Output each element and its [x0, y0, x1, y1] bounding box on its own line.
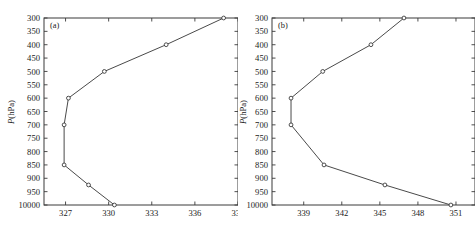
- y-tick-label: 350: [255, 26, 268, 36]
- y-tick-label: 800: [255, 147, 268, 157]
- data-point-marker: [289, 96, 293, 100]
- data-point-marker: [62, 163, 66, 167]
- data-point-marker: [102, 70, 106, 74]
- y-axis-label-unit: (hPa): [6, 100, 16, 119]
- y-axis-label: P(hPa): [6, 100, 16, 125]
- panel-label: (a): [50, 21, 60, 30]
- y-tick-label: 350: [27, 26, 40, 36]
- chart-panel-b: 3393423453483513003504004505005506006507…: [237, 0, 475, 239]
- y-tick-label: 600: [27, 93, 40, 103]
- data-point-marker: [383, 183, 387, 187]
- y-tick-label: 10000: [19, 200, 40, 210]
- y-tick-label: 450: [27, 53, 40, 63]
- y-tick-label: 650: [255, 107, 268, 117]
- y-tick-label: 750: [27, 133, 40, 143]
- y-tick-label: 500: [255, 67, 268, 77]
- x-tick-label: 351: [450, 208, 463, 218]
- data-point-marker: [67, 96, 71, 100]
- data-point-marker: [322, 163, 326, 167]
- data-series-line: [64, 18, 224, 205]
- y-axis-label-unit: (hPa): [238, 100, 248, 119]
- chart-svg-a: 3273303333363393003504004505005506006507…: [0, 0, 238, 239]
- y-tick-label: 300: [27, 13, 40, 23]
- y-tick-label: 10000: [247, 200, 268, 210]
- data-point-marker: [62, 123, 66, 127]
- y-tick-label: 950: [27, 187, 40, 197]
- data-point-marker: [289, 123, 293, 127]
- y-tick-label: 400: [27, 40, 40, 50]
- y-tick-label: 950: [255, 187, 268, 197]
- y-tick-label: 550: [27, 80, 40, 90]
- y-tick-label: 900: [255, 173, 268, 183]
- data-point-marker: [402, 16, 406, 20]
- x-tick-label: 336: [188, 208, 202, 218]
- y-tick-label: 800: [27, 147, 40, 157]
- y-axis-label: P(hPa): [238, 100, 248, 125]
- y-tick-label: 750: [255, 133, 268, 143]
- y-tick-label: 450: [255, 53, 268, 63]
- data-point-marker: [321, 70, 325, 74]
- chart-svg-b: 3393423453483513003504004505005506006507…: [237, 0, 475, 239]
- chart-panel-a: 3273303333363393003504004505005506006507…: [0, 0, 238, 239]
- data-point-marker: [222, 16, 226, 20]
- x-tick-label: 339: [297, 208, 310, 218]
- y-tick-label: 900: [27, 173, 40, 183]
- data-point-marker: [164, 43, 168, 47]
- data-point-marker: [87, 183, 91, 187]
- x-tick-label: 345: [373, 208, 386, 218]
- y-tick-label: 400: [255, 40, 268, 50]
- y-tick-label: 850: [27, 160, 40, 170]
- y-tick-label: 300: [255, 13, 268, 23]
- data-point-marker: [113, 203, 117, 207]
- y-tick-label: 550: [255, 80, 268, 90]
- data-point-marker: [369, 43, 373, 47]
- y-tick-label: 700: [27, 120, 40, 130]
- y-tick-label: 500: [27, 67, 40, 77]
- x-tick-label: 327: [59, 208, 73, 218]
- y-tick-label: 700: [255, 120, 268, 130]
- plot-frame: [272, 18, 475, 205]
- figure-container: 3273303333363393003504004505005506006507…: [0, 0, 475, 239]
- y-tick-label: 850: [255, 160, 268, 170]
- x-tick-label: 342: [335, 208, 348, 218]
- y-axis-label-text: P(hPa): [6, 100, 16, 125]
- x-tick-label: 333: [145, 208, 158, 218]
- x-tick-label: 330: [102, 208, 115, 218]
- panel-label: (b): [278, 21, 288, 30]
- y-tick-label: 650: [27, 107, 40, 117]
- y-axis-label-text: P(hPa): [238, 100, 248, 125]
- data-point-marker: [449, 203, 453, 207]
- y-tick-label: 600: [255, 93, 268, 103]
- x-tick-label: 348: [411, 208, 424, 218]
- plot-frame: [44, 18, 238, 205]
